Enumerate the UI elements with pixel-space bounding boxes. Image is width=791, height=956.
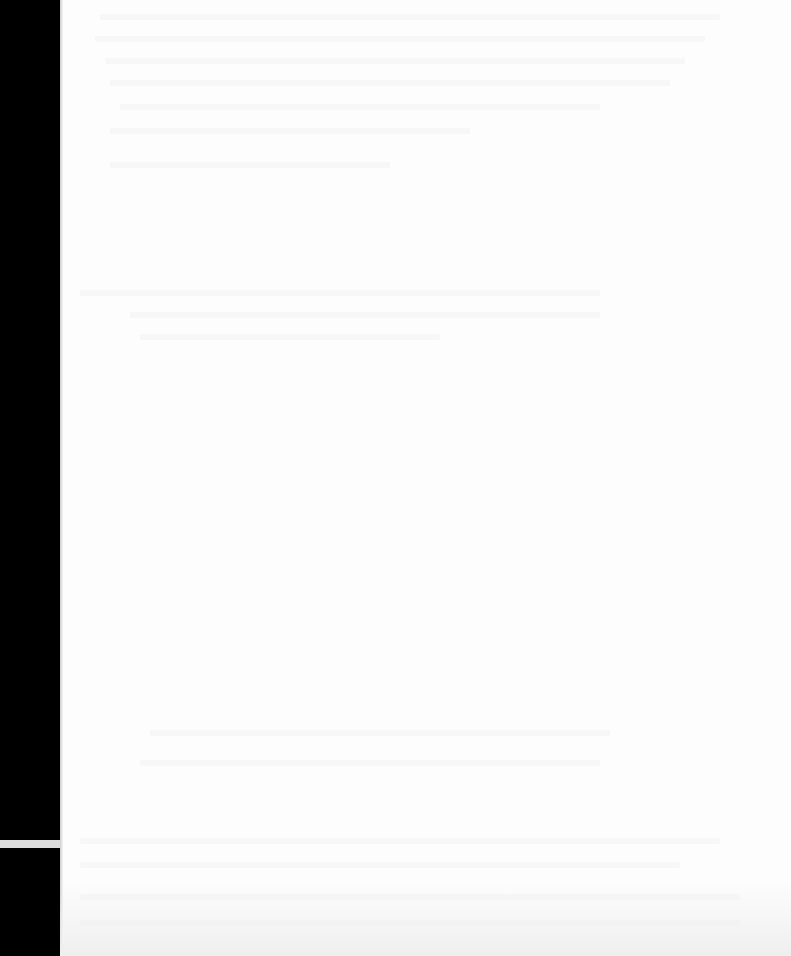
bleed-line <box>140 334 440 340</box>
page-left-edge <box>60 0 63 956</box>
bleed-line <box>95 36 705 42</box>
bleed-line <box>80 838 720 844</box>
bleed-line <box>100 14 720 20</box>
bleed-line <box>105 58 685 64</box>
bleed-line <box>120 104 600 110</box>
bleed-line <box>110 128 470 134</box>
bleed-line <box>110 80 670 86</box>
bleed-line <box>80 862 680 868</box>
blank-page <box>60 0 791 956</box>
bleed-line <box>150 730 610 736</box>
page-tab-strip <box>0 840 62 848</box>
bleed-line <box>130 312 600 318</box>
bleed-line <box>80 290 600 296</box>
scan-background-band <box>0 0 62 956</box>
bleed-line <box>110 162 390 168</box>
bleed-line <box>140 760 600 766</box>
page-bottom-shade <box>60 880 791 956</box>
